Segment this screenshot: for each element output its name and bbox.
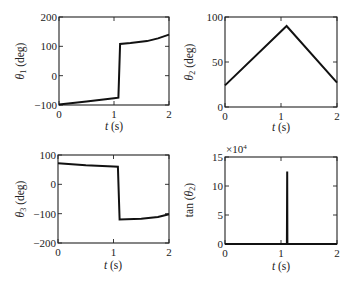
y-tick-label: 0 [51,178,57,190]
y-tick-label: 0 [52,70,58,82]
y-tick-label: −100 [34,99,57,111]
plot-theta2: θ2 (deg) t (s) 012050100 [183,11,340,134]
x-tick-label: 0 [55,246,61,258]
x-tick-label: 1 [278,110,284,122]
y-tick-label: 0 [218,238,224,250]
y-tick-label: 100 [41,40,58,52]
data-line [225,26,337,85]
y-axis-label-theta2: θ2 (deg) [183,43,197,80]
axes-box [58,155,169,243]
x-tick-label: 2 [166,246,172,258]
x-axis-label-theta2: t (s) [272,121,290,134]
y-axis-label-theta1: θ1 (deg) [14,42,28,79]
y-tick-label: −100 [33,208,56,220]
x-tick-label: 2 [334,247,340,259]
y-tick-label: 100 [40,149,57,161]
data-line [225,172,337,245]
data-line [59,35,169,105]
y-tick-label: 200 [41,11,58,23]
y-multiplier-label: ×104 [226,143,247,155]
x-axis-label-tan-theta2: t (s) [272,260,290,273]
plot-theta1: θ1 (deg) t (s) 012−1000100200 [14,11,172,133]
y-tick-label: 50 [212,56,224,68]
y-tick-label: 0 [218,101,224,113]
axes-box [225,157,337,244]
x-tick-label: 0 [56,108,62,120]
y-tick-label: 100 [207,11,224,23]
x-axis-label-theta1: t (s) [105,120,123,133]
x-tick-label: 0 [222,247,228,259]
data-line [58,163,169,219]
x-tick-label: 1 [111,108,117,120]
x-axis-label-theta3: t (s) [104,259,122,272]
x-tick-label: 1 [111,246,117,258]
y-tick-label: 5 [218,209,224,221]
plot-tan-theta2: tan (θ2) t (s) ×104 012051015 [183,143,340,273]
y-tick-label: −200 [33,237,56,249]
x-tick-label: 0 [222,110,228,122]
y-axis-label-theta3: θ3 (deg) [14,180,28,217]
y-tick-label: 10 [212,180,224,192]
x-tick-label: 1 [278,247,284,259]
figure: θ1 (deg) t (s) 012−1000100200 θ2 (deg) t… [0,0,358,289]
x-tick-label: 2 [334,110,340,122]
axes-box [59,17,169,105]
x-tick-label: 2 [166,108,172,120]
plot-theta3: θ3 (deg) t (s) 012−200−1000100 [14,149,172,272]
y-tick-label: 15 [212,151,224,163]
y-axis-label-tan-theta2: tan (θ2) [183,183,197,217]
